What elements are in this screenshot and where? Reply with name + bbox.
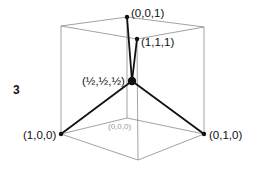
tetrahedral-cube-diagram: 3 (0,0,1) (1,1,1) (½,½,½) (1,0,0) (0: [0, 0, 254, 171]
label-center: (½,½,½): [82, 75, 125, 87]
cube-edge: [61, 134, 138, 160]
cube-edge: [61, 26, 137, 39]
label-100: (1,0,0): [23, 129, 56, 141]
atom-center: [128, 77, 136, 85]
cube-edge: [138, 134, 204, 160]
atom-100: [59, 132, 63, 136]
label-010: (0,1,0): [209, 129, 242, 141]
bond-to-010: [132, 81, 204, 134]
panel-number: 3: [13, 83, 20, 97]
label-111: (1,1,1): [141, 36, 174, 48]
atom-111: [135, 37, 139, 41]
label-001: (0,0,1): [131, 7, 164, 19]
label-000: (0,0,0): [108, 122, 131, 131]
cube-wireframe: [61, 17, 204, 160]
bond-to-001: [127, 17, 132, 81]
cube-edge: [137, 39, 138, 160]
cube-edge: [61, 17, 127, 26]
atom-001: [125, 15, 129, 19]
bond-to-111: [132, 39, 137, 81]
atom-010: [202, 132, 206, 136]
